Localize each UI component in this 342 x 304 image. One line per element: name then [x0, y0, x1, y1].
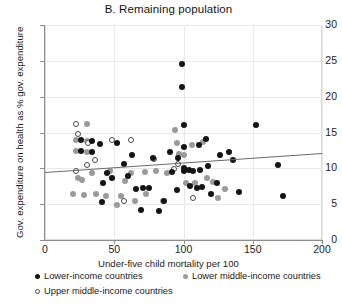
data-point-lowmid [81, 192, 87, 198]
y-tick [40, 97, 45, 98]
data-point-low [167, 149, 173, 155]
data-point-low [174, 187, 180, 193]
data-point-low [100, 180, 106, 186]
data-point-low [181, 122, 187, 128]
data-point-lowmid [153, 168, 159, 174]
x-tick-label: 50 [94, 243, 134, 255]
y-tick-label: 5 [303, 197, 337, 209]
data-point-low [275, 162, 281, 168]
data-point-upmid [84, 162, 90, 168]
y-tick [40, 240, 45, 241]
y-tick-label: 25 [303, 54, 337, 66]
chart-title: B. Remaining population [0, 3, 337, 15]
data-point-low [199, 184, 205, 190]
data-point-low [190, 168, 196, 174]
data-point-low [156, 208, 162, 214]
legend-marker-upmid-icon [35, 289, 40, 294]
data-point-low [214, 180, 220, 186]
legend-label-upmid: Upper middle-income countries [44, 286, 173, 296]
data-point-low [179, 84, 185, 90]
data-point-low [150, 155, 156, 161]
data-point-lowmid [103, 193, 109, 199]
data-point-lowmid [215, 195, 221, 201]
x-tick [114, 240, 115, 244]
legend-label-lowmid: Lower middle-income countries [192, 271, 321, 281]
legend-item-lowmid: Lower middle-income countries [183, 271, 321, 281]
data-point-low [196, 142, 202, 148]
legend-label-low: Lower-income countries [44, 271, 143, 281]
y-tick [40, 133, 45, 134]
legend-item-upmid: Upper middle-income countries [35, 286, 173, 296]
legend-marker-low-icon [35, 274, 40, 279]
data-point-low [226, 149, 232, 155]
data-point-lowmid [142, 169, 148, 175]
x-tick-label: 100 [164, 243, 204, 255]
y-tick-label: 15 [303, 126, 337, 138]
data-point-lowmid [114, 202, 120, 208]
data-point-low [181, 144, 187, 150]
y-tick-label: 20 [303, 90, 337, 102]
x-tick [322, 240, 323, 244]
data-point-low [146, 185, 152, 191]
data-point-lowmid [181, 152, 187, 158]
legend-item-low: Lower-income countries [35, 271, 143, 281]
x-tick-label: 200 [302, 243, 342, 255]
x-tick-label: 0 [25, 243, 65, 255]
data-point-low [89, 149, 95, 155]
y-tick-label: 30 [303, 18, 337, 30]
data-point-low [253, 122, 259, 128]
x-tick [253, 240, 254, 244]
data-point-low [203, 136, 209, 142]
gridline-x [253, 25, 254, 240]
x-axis-title: Under-five child mortality per 100 [0, 258, 337, 269]
data-point-lowmid [189, 142, 195, 148]
y-tick-label: 10 [303, 161, 337, 173]
y-tick [40, 61, 45, 62]
data-point-upmid [190, 195, 196, 201]
data-point-low [109, 175, 115, 181]
data-point-low [197, 167, 203, 173]
data-point-lowmid [172, 127, 178, 133]
data-point-low [125, 173, 131, 179]
data-point-low [138, 207, 144, 213]
y-axis-title: Gov. expenditure on health as % gov. exp… [14, 27, 25, 238]
data-point-upmid [92, 157, 98, 163]
plot-area [45, 25, 322, 240]
data-point-low [99, 199, 105, 205]
data-point-low [236, 189, 242, 195]
y-tick [40, 168, 45, 169]
data-point-lowmid [84, 121, 90, 127]
y-tick [40, 204, 45, 205]
y-tick [40, 25, 45, 26]
data-point-low [114, 140, 120, 146]
x-tick [184, 240, 185, 244]
data-point-low [217, 152, 223, 158]
gridline-x [184, 25, 185, 240]
legend-marker-lowmid-icon [183, 274, 188, 279]
data-point-lowmid [174, 140, 180, 146]
data-point-lowmid [70, 191, 76, 197]
data-point-upmid [73, 121, 79, 127]
data-point-low [129, 152, 135, 158]
x-tick-label: 150 [233, 243, 273, 255]
data-point-low [280, 193, 286, 199]
